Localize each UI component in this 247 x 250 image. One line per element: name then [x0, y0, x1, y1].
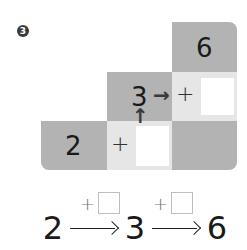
- plus-sign: +: [111, 131, 129, 156]
- chain-end: 6: [204, 212, 230, 244]
- arrow-up-icon: ↑: [132, 106, 149, 126]
- answer-box[interactable]: [171, 192, 193, 214]
- cell-value: 6: [196, 35, 213, 61]
- chain-op-2: +: [153, 192, 193, 214]
- cell-middle-add: +: [172, 72, 237, 121]
- plus-sign: +: [80, 193, 95, 214]
- chain-op-1: +: [80, 192, 120, 214]
- arrow-right-icon: →: [153, 85, 170, 105]
- long-arrow-right-icon: [70, 221, 118, 235]
- long-arrow-right-icon: [152, 221, 200, 235]
- cell-value: 2: [65, 133, 82, 159]
- cell-bottom-2: 2: [41, 121, 107, 170]
- cell-bottom-filler: [172, 121, 237, 170]
- plus-sign: +: [176, 81, 194, 106]
- answer-box[interactable]: [98, 192, 120, 214]
- cell-top-6: 6: [172, 22, 237, 72]
- chain-start: 2: [40, 212, 66, 244]
- number-chain: 2 3 6: [40, 212, 230, 244]
- chain-middle: 3: [122, 212, 148, 244]
- problem-number-badge: 3: [17, 25, 29, 37]
- answer-box[interactable]: [136, 126, 169, 166]
- cell-bottom-add: +: [107, 121, 172, 170]
- answer-box[interactable]: [201, 78, 234, 115]
- plus-sign: +: [153, 193, 168, 214]
